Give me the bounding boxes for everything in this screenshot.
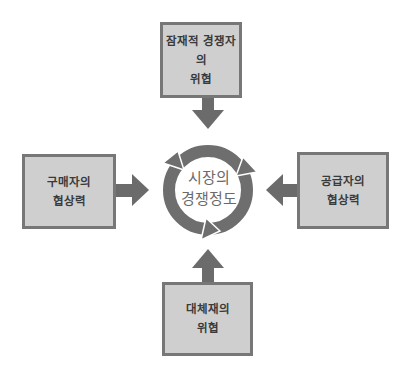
force-box-buyer-power: 구매자의 협상력 [22, 154, 116, 229]
force-label-line2: 협상력 [53, 192, 86, 211]
force-label-line1: 공급자의 [321, 172, 365, 191]
arrow-up-icon [192, 249, 224, 284]
center-label-line1: 시장의 [168, 168, 250, 189]
force-box-substitutes: 대체재의 위협 [162, 282, 253, 356]
force-label-line1: 구매자의 [47, 173, 91, 192]
center-label: 시장의 경쟁정도 [168, 168, 250, 210]
arrow-left-icon [266, 174, 299, 206]
force-label-line1: 대체재의 [186, 300, 230, 319]
arrow-right-icon [114, 174, 149, 206]
force-label-line2: 위협 [190, 70, 212, 89]
force-box-potential-entrants: 잠재적 경쟁자의 위협 [160, 22, 242, 98]
force-label-line2: 위협 [197, 319, 219, 338]
force-label-line2: 협상력 [327, 191, 360, 210]
force-box-supplier-power: 공급자의 협상력 [297, 152, 389, 229]
center-label-line2: 경쟁정도 [168, 189, 250, 210]
arrow-down-icon [192, 96, 224, 129]
force-label-line1: 잠재적 경쟁자의 [163, 32, 239, 70]
